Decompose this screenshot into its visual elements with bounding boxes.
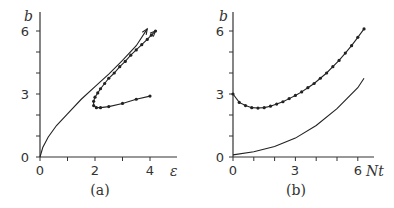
data-point (95, 106, 98, 109)
data-point (238, 101, 241, 104)
data-point (135, 48, 138, 51)
xlabel-b: Nt (365, 163, 384, 179)
data-point (92, 100, 95, 103)
data-point (118, 65, 121, 68)
ytick-a-6: 6 (21, 24, 29, 39)
data-point (121, 102, 124, 105)
xtick-b-6: 6 (354, 163, 362, 178)
data-point (93, 96, 96, 99)
data-point (250, 106, 253, 109)
data-point (99, 106, 102, 109)
xlabel-a: ε (170, 163, 178, 179)
ylabel-a: b (24, 8, 33, 24)
data-point (269, 105, 272, 108)
data-point (107, 77, 110, 80)
data-point (113, 71, 116, 74)
data-point (294, 94, 297, 97)
xtick-b-3: 3 (291, 163, 299, 178)
plot-b (231, 27, 365, 155)
data-point (331, 65, 334, 68)
data-point (129, 54, 132, 57)
ytick-a-0: 0 (21, 150, 29, 165)
data-point (96, 91, 99, 94)
ytick-b-6: 6 (216, 24, 224, 39)
series-line (233, 29, 364, 108)
xtick-a-2: 2 (91, 163, 99, 178)
data-point (99, 87, 102, 90)
data-point (150, 34, 153, 37)
data-point (135, 98, 138, 101)
data-point (344, 51, 347, 54)
xtick-a-0: 0 (36, 163, 44, 178)
panel-a: 0 3 6 b 0 2 4 ε (a) (21, 8, 178, 198)
data-point (244, 104, 247, 107)
panel-b: 0 3 6 b 0 3 6 Nt (b) (216, 8, 385, 198)
xtick-a-4: 4 (146, 163, 154, 178)
ytick-b-3: 3 (216, 87, 224, 102)
data-point (306, 86, 309, 89)
data-point (288, 97, 291, 100)
data-point (146, 38, 149, 41)
data-point (124, 60, 127, 63)
data-point (350, 44, 353, 47)
ytick-b-0: 0 (216, 150, 224, 165)
data-point (256, 106, 259, 109)
data-point (92, 104, 95, 107)
data-point (148, 95, 151, 98)
data-point (300, 90, 303, 93)
xtick-b-0: 0 (229, 163, 237, 178)
caption-a: (a) (90, 182, 109, 198)
data-point (140, 43, 143, 46)
ytick-a-3: 3 (21, 87, 29, 102)
data-point (231, 92, 234, 95)
figure: 0 3 6 b 0 2 4 ε (a) 0 3 6 b 0 3 6 Nt (b) (0, 0, 394, 208)
series-line (233, 78, 364, 155)
series-line (94, 31, 156, 108)
data-point (337, 59, 340, 62)
data-point (362, 27, 365, 30)
data-point (319, 77, 322, 80)
plot-a (40, 29, 157, 157)
data-point (313, 82, 316, 85)
caption-b: (b) (286, 182, 306, 198)
data-point (281, 100, 284, 103)
data-point (107, 105, 110, 108)
data-point (356, 36, 359, 39)
data-point (103, 82, 106, 85)
series-line (40, 29, 147, 157)
data-point (263, 106, 266, 109)
data-point (325, 71, 328, 74)
ylabel-b: b (219, 8, 228, 24)
ticks-a (36, 31, 150, 161)
data-point (275, 102, 278, 105)
